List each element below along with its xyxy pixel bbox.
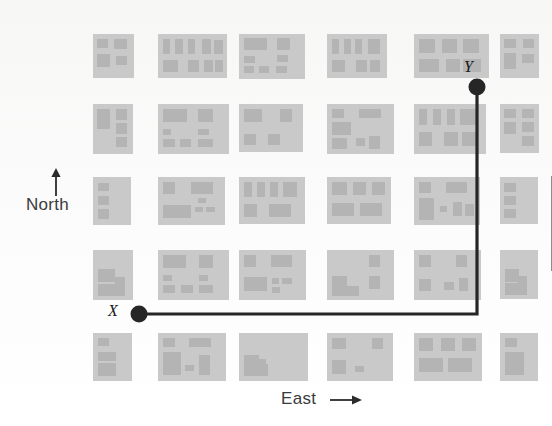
point-x-label: X (108, 302, 118, 320)
north-arrow-icon (48, 168, 64, 196)
point-x-marker (131, 306, 148, 323)
east-arrow-icon (330, 392, 362, 408)
east-label: East (281, 389, 316, 409)
north-label: North (26, 195, 69, 215)
point-y-label: Y (464, 58, 473, 76)
point-y-marker (469, 79, 486, 96)
city-grid-map-figure: X Y North East (0, 0, 552, 426)
x-to-y-route-line (139, 87, 477, 314)
